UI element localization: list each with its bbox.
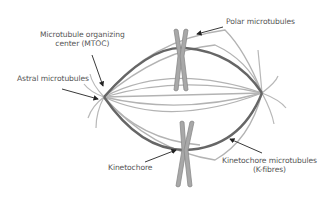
kfibres-label: Kinetochore microtubules (K-fibres) [222,156,317,174]
chromosome-bottom [176,121,194,187]
kfibres-label-line1: Kinetochore microtubules [222,156,317,165]
astral-label: Astral microtubules [17,74,89,83]
polar-label: Polar microtubules [226,17,295,26]
chromosome-top [174,29,188,91]
kinetochore-label: Kinetochore [108,163,152,172]
mtoc-label-line2: center (MTOC) [40,39,125,48]
mtoc-label-line1: Microtubule organizing [40,30,125,39]
mtoc-label: Microtubule organizing center (MTOC) [40,30,125,48]
kfibres-label-line2: (K-fibres) [222,165,317,174]
astral-microtubules-right [258,50,286,124]
